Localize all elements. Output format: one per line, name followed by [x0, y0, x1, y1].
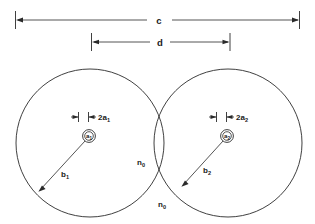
right-core-dim-right-arrowhead	[226, 115, 232, 119]
right-core-label-subscript: 2	[227, 136, 230, 141]
left-core-dim-left-arrowhead	[73, 115, 79, 119]
medium-index-lower-subscript: 0	[163, 204, 166, 210]
left-core-label-subscript: 1	[89, 136, 92, 141]
left-core-diameter-label: 2a1	[98, 113, 110, 123]
right-core-diameter-label-subscript: 2	[245, 117, 248, 123]
left-radius-label: b1	[61, 170, 69, 180]
right-radius-label: b2	[203, 166, 211, 176]
medium-index-lower-label: n0	[158, 200, 166, 210]
medium-index-upper-subscript: 0	[142, 162, 145, 168]
left-cladding-circle	[16, 69, 164, 217]
left-radius-label-subscript: 1	[66, 174, 69, 180]
dimension-c: c	[16, 11, 300, 29]
right-radius-label-subscript: 2	[208, 170, 211, 176]
figure-container: c d 2a1	[0, 0, 315, 224]
right-core: a2	[221, 130, 234, 143]
dimension-c-right-arrowhead	[292, 18, 299, 23]
right-core-diameter-label: 2a2	[236, 113, 248, 123]
dimension-d: d	[92, 33, 231, 51]
right-radius-line	[184, 141, 224, 185]
right-radius-arrow: b2	[181, 141, 223, 187]
right-cladding-circle	[154, 69, 302, 217]
dimension-d-right-arrowhead	[223, 40, 230, 45]
left-radius-arrowhead	[38, 186, 45, 192]
right-core-dim-left-arrowhead	[211, 115, 217, 119]
left-core-dim-right-arrowhead	[88, 115, 94, 119]
right-core-diameter-dimension: 2a2	[209, 112, 248, 123]
left-core: a1	[83, 130, 96, 143]
left-core-diameter-dimension: 2a1	[71, 112, 110, 123]
right-radius-arrowhead	[181, 181, 188, 187]
dimension-d-label: d	[157, 37, 163, 48]
left-radius-arrow: b1	[38, 141, 85, 192]
dimension-c-label: c	[156, 15, 161, 26]
medium-index-upper-label: n0	[137, 158, 145, 168]
left-core-diameter-label-subscript: 1	[107, 117, 110, 123]
dual-fiber-cross-section-diagram: c d 2a1	[0, 0, 315, 224]
left-radius-line	[41, 141, 86, 190]
